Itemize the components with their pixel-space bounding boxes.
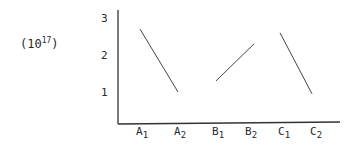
x-tick-label: A1: [136, 125, 148, 140]
x-tick-label: C1: [278, 125, 290, 140]
x-tick-label: C2: [310, 125, 322, 140]
x-tick-label: A2: [174, 125, 186, 140]
y-tick-label: 1: [101, 86, 108, 99]
y-tick-label: 2: [101, 49, 108, 62]
x-tick-label: B2: [245, 125, 257, 140]
series-line-b: [216, 44, 254, 81]
x-tick-label: B1: [212, 125, 224, 140]
x-axis: [118, 122, 340, 124]
y-tick-label: 3: [101, 12, 108, 25]
series-line-a: [140, 29, 178, 92]
line-chart: 123A1A2B1B2C1C2: [0, 0, 352, 145]
series-line-c: [280, 33, 312, 94]
